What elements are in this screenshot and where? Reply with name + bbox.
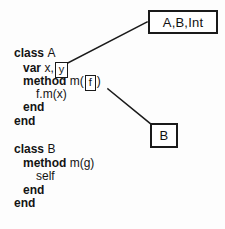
- inline-box-f[interactable]: f: [85, 75, 96, 91]
- keyword-end-method-a: end: [23, 100, 44, 114]
- keyword-class: class: [14, 46, 44, 60]
- method-body-b-text: self: [36, 169, 55, 183]
- code-block-class-b: class B method m(g) self end end: [14, 143, 94, 211]
- code-line-var-decl: var x,y: [14, 61, 101, 75]
- inline-box-y[interactable]: y: [55, 62, 69, 78]
- keyword-method-b: method: [23, 156, 66, 170]
- code-line-method-m-b-signature: method m(g): [14, 157, 94, 171]
- method-sig-open: m(: [70, 74, 84, 88]
- code-line-class-b-header: class B: [14, 143, 94, 157]
- method-sig-b: m(g): [70, 156, 95, 170]
- type-box-abint-label: A,B,Int: [163, 15, 203, 30]
- diagram-canvas: A,B,Int B class A var x,y method m(f) f.…: [0, 0, 225, 229]
- code-line-end-class-a: end: [14, 115, 101, 129]
- keyword-end-class-b: end: [14, 196, 35, 210]
- code-line-method-body-b: self: [14, 170, 94, 184]
- keyword-class-b: class: [14, 142, 44, 156]
- method-body-a-text: f.m(x): [36, 87, 67, 101]
- keyword-end-method-b: end: [23, 183, 44, 197]
- code-block-class-a: class A var x,y method m(f) f.m(x) end e…: [14, 47, 101, 128]
- code-line-end-class-b: end: [14, 197, 94, 211]
- code-line-class-a-header: class A: [14, 47, 101, 61]
- code-line-end-method-a: end: [14, 101, 101, 115]
- type-box-b-label: B: [160, 128, 169, 143]
- keyword-var: var: [23, 61, 41, 75]
- edge-f-to-b: [108, 89, 151, 124]
- keyword-end-class-a: end: [14, 114, 35, 128]
- type-box-b[interactable]: B: [150, 123, 178, 148]
- code-line-end-method-b: end: [14, 184, 94, 198]
- var-names: x,: [44, 61, 53, 75]
- class-name-a: A: [47, 46, 55, 60]
- type-box-abint[interactable]: A,B,Int: [148, 10, 218, 34]
- class-name-b: B: [47, 142, 55, 156]
- method-sig-close: ): [97, 74, 101, 88]
